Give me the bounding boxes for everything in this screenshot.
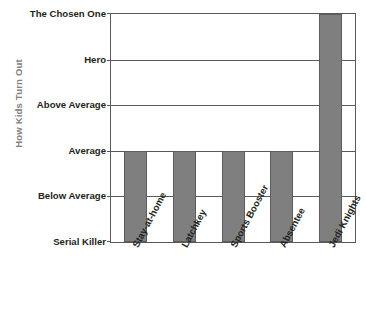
y-axis-tick-labels: The Chosen One Hero Above Average Averag… <box>0 0 106 250</box>
y-tick-label: Above Average <box>0 99 106 110</box>
bar-jedi-knights[interactable] <box>319 14 342 242</box>
y-tick-label: The Chosen One <box>0 8 106 19</box>
y-tick-label: Hero <box>0 54 106 65</box>
y-tick-label: Serial Killer <box>0 236 106 247</box>
plot-area <box>110 13 356 243</box>
x-axis-tick-labels: Stay-at-home Latchkey Sports Booster Abs… <box>110 244 356 330</box>
y-tick-label: Average <box>0 145 106 156</box>
bars-layer <box>111 14 355 242</box>
y-tick-label: Below Average <box>0 190 106 201</box>
bar-chart: How Kids Turn Out The Chosen One Hero Ab… <box>0 0 366 330</box>
